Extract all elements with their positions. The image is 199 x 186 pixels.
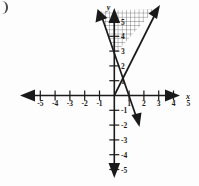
x-axis-left-arrow-icon bbox=[20, 90, 35, 102]
x-tick-label: -3 bbox=[67, 99, 73, 108]
y-tick-label: -2 bbox=[121, 121, 127, 130]
y-tick-label: 3 bbox=[121, 47, 125, 56]
falling-line-lower-arrow-icon bbox=[132, 113, 142, 128]
y-tick-label: 2 bbox=[121, 62, 125, 71]
y-tick-label: -5 bbox=[121, 166, 127, 175]
x-tick-label: 3 bbox=[157, 99, 161, 108]
x-tick-label: 2 bbox=[142, 99, 146, 108]
graph-screenshot: -5 -4 -3 -2 -1 1 2 3 4 5 5 4 3 2 1 -1 -2… bbox=[0, 0, 199, 186]
x-tick-label: -1 bbox=[96, 99, 102, 108]
x-tick-label: 1 bbox=[127, 99, 131, 108]
x-tick-label: 4 bbox=[172, 99, 176, 108]
y-tick-label: 5 bbox=[121, 18, 125, 27]
coordinate-plane-graph: -5 -4 -3 -2 -1 1 2 3 4 5 5 4 3 2 1 -1 -2… bbox=[0, 0, 199, 186]
y-tick-label: 1 bbox=[121, 77, 125, 86]
x-tick-label: -2 bbox=[82, 99, 88, 108]
y-axis-bottom-arrow-icon bbox=[109, 163, 121, 178]
y-tick-label: -3 bbox=[121, 136, 127, 145]
y-tick-labels-negative: -1 -2 -3 -4 -5 bbox=[121, 106, 127, 174]
y-axis-label: y bbox=[106, 3, 111, 12]
y-tick-label: -1 bbox=[121, 106, 127, 115]
y-tick-label: -4 bbox=[121, 151, 127, 160]
x-tick-label: -5 bbox=[37, 99, 43, 108]
y-tick-label: 4 bbox=[121, 32, 125, 41]
x-axis-label: x bbox=[185, 92, 190, 101]
x-tick-label: -4 bbox=[52, 99, 58, 108]
